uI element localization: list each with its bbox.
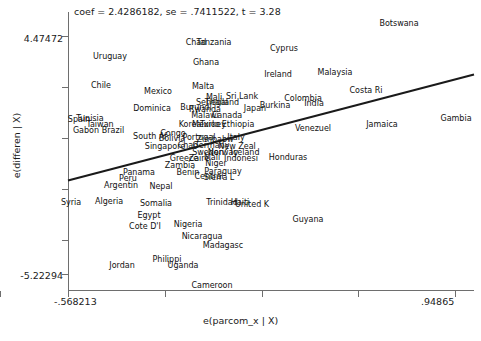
data-point-label: Canada bbox=[212, 111, 242, 120]
data-point-label: Sierra L bbox=[204, 173, 235, 182]
data-point-label: India bbox=[304, 99, 324, 108]
y-axis-tick bbox=[62, 138, 68, 139]
chart-canvas: coef = 2.4286182, se = .7411522, t = 3.2… bbox=[0, 0, 481, 341]
data-point-label: Nigeria bbox=[174, 220, 203, 229]
data-point-label: Malaysia bbox=[318, 68, 353, 77]
data-point-label: Algeria bbox=[95, 197, 123, 206]
data-point-label: Uganda bbox=[168, 261, 199, 270]
x-axis-tick bbox=[165, 291, 166, 297]
data-point-label: Nepal bbox=[149, 182, 172, 191]
x-axis-tick bbox=[455, 291, 456, 297]
x-axis-title: e(parcom_x | X) bbox=[0, 315, 481, 326]
x-axis-tick-label-max: .94865 bbox=[421, 296, 454, 307]
data-point-label: United K bbox=[235, 200, 269, 209]
data-point-label: Brazil bbox=[102, 126, 124, 135]
data-point-label: Ireland bbox=[264, 70, 292, 79]
data-point-label: Jamaica bbox=[366, 120, 397, 129]
data-point-label: Italy bbox=[227, 133, 244, 142]
data-point-label: Ghana bbox=[193, 58, 219, 67]
data-point-label: Ethiopia bbox=[222, 120, 255, 129]
y-axis-title: e(differen | X) bbox=[11, 86, 22, 206]
data-point-label: Venezuel bbox=[295, 124, 331, 133]
x-axis-tick bbox=[358, 291, 359, 297]
data-point-label: Jordan bbox=[109, 261, 134, 270]
y-axis-tick bbox=[62, 240, 68, 241]
data-point-label: Cameroon bbox=[191, 281, 232, 290]
data-point-label: Japan bbox=[244, 104, 266, 113]
data-point-label: Honduras bbox=[269, 153, 308, 162]
data-point-label: Argentin bbox=[104, 181, 138, 190]
data-point-label: Cote D'I bbox=[129, 222, 161, 231]
y-axis-line bbox=[68, 12, 69, 291]
data-point-label: Uruguay bbox=[93, 52, 127, 61]
data-point-label: Madagasc bbox=[203, 241, 243, 250]
x-axis-tick-label-min: -.568213 bbox=[54, 296, 97, 307]
data-point-label: Tanzania bbox=[197, 38, 232, 47]
data-point-label: Syria bbox=[61, 198, 81, 207]
data-point-label: Egypt bbox=[137, 211, 160, 220]
y-axis-tick-label-min: -5.22294 bbox=[20, 270, 63, 281]
data-point-label: Nicaragua bbox=[182, 232, 223, 241]
data-point-label: Dominica bbox=[133, 104, 171, 113]
data-point-label: Guyana bbox=[293, 215, 324, 224]
data-point-label: Malta bbox=[192, 82, 214, 91]
data-point-label: Chile bbox=[91, 81, 111, 90]
x-axis-line bbox=[68, 290, 474, 291]
data-point-label: Costa Ri bbox=[349, 86, 382, 95]
x-axis-tick bbox=[262, 291, 263, 297]
data-point-label: Botswana bbox=[379, 19, 418, 28]
data-point-label: Mexico bbox=[144, 87, 172, 96]
x-axis-tick bbox=[0, 291, 1, 297]
y-axis-tick bbox=[62, 87, 68, 88]
y-axis-tick-label-max: 4.47472 bbox=[24, 33, 63, 44]
y-axis-tick bbox=[62, 189, 68, 190]
data-point-label: Indonesi bbox=[224, 154, 258, 163]
data-point-label: Gabon bbox=[73, 126, 99, 135]
chart-title: coef = 2.4286182, se = .7411522, t = 3.2… bbox=[74, 6, 281, 17]
data-point-label: Cyprus bbox=[270, 44, 298, 53]
data-point-label: Gambia bbox=[440, 114, 471, 123]
data-point-label: Somalia bbox=[140, 199, 172, 208]
